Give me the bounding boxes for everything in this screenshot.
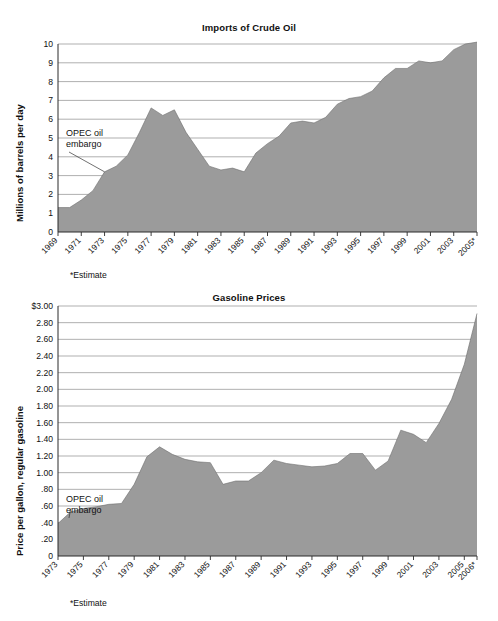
plot-area-imports: 1098765432101969197119731975197719791981… — [0, 0, 498, 300]
y-tick-label: .60 — [41, 501, 53, 511]
x-tick-label: 1981 — [141, 559, 161, 579]
x-tick-label: 1985 — [192, 559, 212, 579]
y-tick-label: 2.00 — [36, 384, 53, 394]
area-series — [58, 42, 477, 232]
x-tick-label: 1993 — [318, 235, 338, 255]
y-tick-label: 4 — [48, 152, 53, 162]
x-tick-label: 2005* — [456, 235, 479, 258]
annotation-leader-line — [69, 152, 105, 172]
x-tick-label: 2001 — [412, 235, 432, 255]
x-tick-label: 1999 — [388, 235, 408, 255]
x-tick-label: 1993 — [293, 559, 313, 579]
annotation-opec-line1: OPEC oil — [66, 494, 103, 504]
x-tick-label: 1977 — [90, 559, 110, 579]
x-tick-label: 1991 — [268, 559, 288, 579]
x-tick-label: 1975 — [65, 559, 85, 579]
x-tick-label: 1995 — [342, 235, 362, 255]
y-tick-label: 9 — [48, 58, 53, 68]
y-tick-label: 10 — [43, 39, 53, 49]
y-tick-label: 2.40 — [36, 351, 53, 361]
x-tick-label: 1989 — [242, 559, 262, 579]
x-tick-label: 1975 — [109, 235, 129, 255]
annotation-opec-line2: embargo — [66, 139, 102, 149]
x-tick-label: 2001 — [395, 559, 415, 579]
y-tick-label: 5 — [48, 133, 53, 143]
y-tick-label: 2.60 — [36, 334, 53, 344]
y-tick-label: .40 — [41, 518, 53, 528]
plot-area-gasoline: $3.002.802.602.402.202.001.801.601.401.2… — [0, 288, 498, 621]
x-tick-label: 1999 — [369, 559, 389, 579]
x-tick-label: 1997 — [344, 559, 364, 579]
y-tick-label: 3 — [48, 171, 53, 181]
x-tick-label: 1995 — [318, 559, 338, 579]
y-tick-label: 1.20 — [36, 451, 53, 461]
annotation-opec-line1: OPEC oil — [66, 128, 103, 138]
x-tick-label: 1971 — [62, 235, 82, 255]
y-tick-label: .80 — [41, 484, 53, 494]
y-tick-label: 2.80 — [36, 318, 53, 328]
x-tick-label: 1981 — [179, 235, 199, 255]
y-tick-label: 6 — [48, 114, 53, 124]
y-tick-label: 1 — [48, 208, 53, 218]
y-tick-label: 1.40 — [36, 434, 53, 444]
x-tick-label: 1969 — [39, 235, 59, 255]
x-tick-label: 1979 — [156, 235, 176, 255]
annotation-opec-line2: embargo — [66, 505, 102, 515]
x-tick-label: 1987 — [249, 235, 269, 255]
x-tick-label: 2003 — [420, 559, 440, 579]
x-tick-label: 1973 — [39, 559, 59, 579]
y-tick-label: 7 — [48, 95, 53, 105]
x-tick-label: 1983 — [166, 559, 186, 579]
x-tick-label: 2003 — [435, 235, 455, 255]
x-tick-label: 1977 — [132, 235, 152, 255]
chart-gasoline-prices: Gasoline Prices Price per gallon, regula… — [0, 288, 498, 621]
y-tick-label: 1.60 — [36, 418, 53, 428]
y-tick-label: 8 — [48, 77, 53, 87]
x-tick-label: 1983 — [202, 235, 222, 255]
y-tick-label: $3.00 — [31, 301, 53, 311]
x-tick-label: 1985 — [225, 235, 245, 255]
y-tick-label: .20 — [41, 534, 53, 544]
footnote-estimate: *Estimate — [70, 270, 107, 280]
x-tick-label: 1989 — [272, 235, 292, 255]
x-tick-label: 1973 — [86, 235, 106, 255]
y-tick-label: 2.20 — [36, 368, 53, 378]
y-tick-label: 1.80 — [36, 401, 53, 411]
x-tick-label: 1987 — [217, 559, 237, 579]
y-tick-label: 1.00 — [36, 468, 53, 478]
y-tick-label: 2 — [48, 189, 53, 199]
x-tick-label: 1991 — [295, 235, 315, 255]
chart-imports-of-crude-oil: Imports of Crude Oil Millions of barrels… — [0, 0, 498, 300]
x-tick-label: 1997 — [365, 235, 385, 255]
x-tick-label: 1979 — [115, 559, 135, 579]
footnote-estimate: *Estimate — [70, 598, 107, 608]
